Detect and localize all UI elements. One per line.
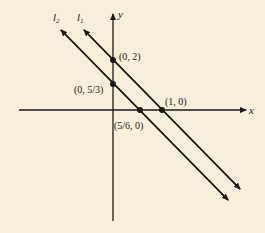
point-label-1-0: (1, 0) bbox=[165, 96, 187, 108]
point-0-2 bbox=[110, 57, 116, 63]
point-label-0-5-3: (0, 5/3) bbox=[74, 84, 103, 96]
line-l2-label: l2 bbox=[53, 11, 60, 25]
line-l1-label: l1 bbox=[77, 11, 84, 25]
point-0-5-3 bbox=[110, 81, 116, 87]
diagram-canvas: x y l2 l1 (0, 2) (1, 0) (0, 5/3) (5/6, 0… bbox=[0, 0, 265, 233]
line-l2-lower-arrow bbox=[61, 30, 228, 200]
point-5-6-0 bbox=[137, 107, 143, 113]
parallel-lines-diagram: x y l2 l1 (0, 2) (1, 0) (0, 5/3) (5/6, 0… bbox=[0, 0, 265, 233]
y-axis-label: y bbox=[117, 8, 123, 20]
point-label-5-6-0: (5/6, 0) bbox=[114, 120, 143, 132]
point-1-0 bbox=[159, 107, 165, 113]
x-axis-label: x bbox=[248, 104, 254, 116]
point-label-0-2: (0, 2) bbox=[119, 51, 141, 63]
